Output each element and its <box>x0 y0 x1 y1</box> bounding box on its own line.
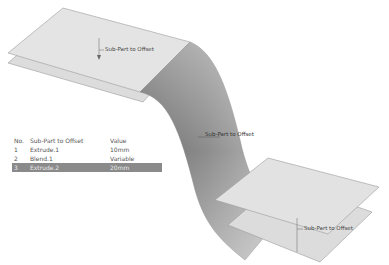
offset-table: No. Sub-Part to Offset Value 1 Extrude.1… <box>12 136 162 172</box>
row-part: Extrude.1 <box>30 145 110 154</box>
table-row-selected[interactable]: 3 Extrude.2 20mm <box>12 163 162 172</box>
table-row[interactable]: 2 Blend.1 Variable <box>12 154 162 163</box>
callout-middle-label: Sub-Part to Offset <box>205 131 255 137</box>
callout-bottom-label: Sub-Part to Offset <box>304 225 354 231</box>
header-part: Sub-Part to Offset <box>30 136 110 145</box>
header-no: No. <box>12 136 30 145</box>
row-value: Variable <box>110 154 162 163</box>
row-value: 20mm <box>110 163 162 172</box>
callout-top-label: Sub-Part to Offset <box>105 46 155 52</box>
offset-surface-diagram: Sub-Part to Offset Sub-Part to Offset Su… <box>0 0 389 265</box>
table-header: No. Sub-Part to Offset Value <box>12 136 162 145</box>
row-part: Extrude.2 <box>30 163 110 172</box>
row-no: 1 <box>12 145 30 154</box>
row-no: 3 <box>12 163 30 172</box>
header-value: Value <box>110 136 162 145</box>
callout-middle: Sub-Part to Offset <box>198 131 255 137</box>
row-no: 2 <box>12 154 30 163</box>
row-part: Blend.1 <box>30 154 110 163</box>
table-row[interactable]: 1 Extrude.1 10mm <box>12 145 162 154</box>
row-value: 10mm <box>110 145 162 154</box>
